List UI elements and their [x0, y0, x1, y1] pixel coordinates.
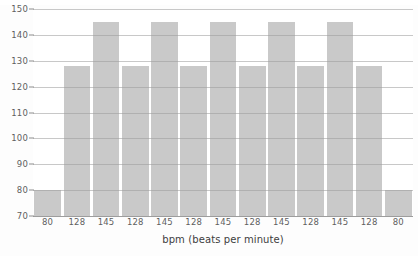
x-tick-label: 128 — [244, 217, 261, 227]
bar — [385, 190, 412, 216]
bar — [93, 22, 120, 216]
y-tick-mark-90 — [29, 164, 34, 165]
y-axis: 708090100110120130140150 — [0, 0, 33, 226]
y-tick-mark-100 — [29, 138, 34, 139]
top-clip-mask — [0, 0, 418, 5]
x-tick-label: 128 — [185, 217, 202, 227]
plot-area — [33, 9, 413, 216]
y-tick-mark-110 — [29, 112, 34, 113]
y-tick-label-80: 80 — [17, 185, 28, 195]
x-tick-label: 145 — [332, 217, 349, 227]
y-tick-mark-120 — [29, 86, 34, 87]
x-tick-label: 80 — [393, 217, 404, 227]
bar — [327, 22, 354, 216]
y-tick-label-120: 120 — [11, 82, 28, 92]
bar — [268, 22, 295, 216]
y-tick-label-90: 90 — [17, 159, 28, 169]
y-tick-mark-150 — [29, 9, 34, 10]
x-tick-label: 128 — [361, 217, 378, 227]
bar — [210, 22, 237, 216]
x-tick-label: 128 — [302, 217, 319, 227]
x-tick-label: 145 — [273, 217, 290, 227]
bar — [356, 66, 383, 216]
x-tick-label: 145 — [156, 217, 173, 227]
bar — [34, 190, 61, 216]
x-axis: 8012814512814512814512814512814512880 — [33, 217, 413, 231]
y-tick-mark-80 — [29, 190, 34, 191]
bar — [180, 66, 207, 216]
y-tick-label-110: 110 — [11, 108, 28, 118]
y-tick-mark-140 — [29, 34, 34, 35]
bar-chart: 708090100110120130140150 801281451281451… — [0, 0, 418, 256]
y-tick-label-130: 130 — [11, 56, 28, 66]
bar — [151, 22, 178, 216]
y-tick-label-70: 70 — [17, 211, 28, 221]
x-tick-label: 145 — [215, 217, 232, 227]
bar — [239, 66, 266, 216]
y-tick-label-150: 150 — [11, 4, 28, 14]
y-tick-mark-130 — [29, 60, 34, 61]
bar — [64, 66, 91, 216]
x-tick-label: 145 — [98, 217, 115, 227]
x-axis-title: bpm (beats per minute) — [33, 234, 413, 245]
x-tick-label: 80 — [42, 217, 53, 227]
x-tick-label: 128 — [68, 217, 85, 227]
bar-series — [33, 9, 413, 216]
y-tick-label-100: 100 — [11, 133, 28, 143]
y-tick-label-140: 140 — [11, 30, 28, 40]
x-tick-label: 128 — [127, 217, 144, 227]
bar — [122, 66, 149, 216]
bar — [297, 66, 324, 216]
